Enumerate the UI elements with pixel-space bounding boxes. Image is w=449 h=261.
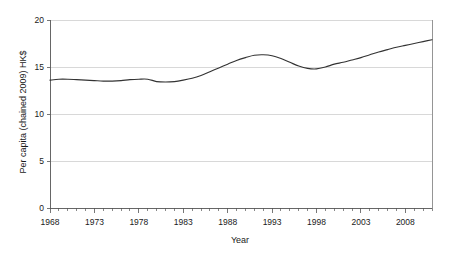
data-series-group (50, 40, 432, 82)
x-axis-tick-label: 1983 (174, 217, 193, 227)
x-axis-tick-labels-group: 196819731978198319881993199820032008 (41, 217, 416, 227)
y-axis-tick-label: 5 (39, 156, 44, 166)
y-axis-tick-label: 0 (39, 203, 44, 213)
x-axis-ticks-group (50, 208, 432, 213)
y-axis-tick-labels-group: 05101520 (35, 15, 45, 213)
y-axis-title: Per capita (chained 2009) HK$ (18, 50, 28, 173)
x-axis-title: Year (231, 235, 249, 245)
x-axis-tick-label: 2003 (351, 217, 370, 227)
x-axis-tick-label: 2008 (396, 217, 415, 227)
x-axis-tick-label: 1993 (263, 217, 282, 227)
x-axis-tick-label: 1998 (307, 217, 326, 227)
y-axis-tick-label: 10 (35, 109, 45, 119)
x-axis-tick-label: 1968 (41, 217, 60, 227)
gridlines-group (50, 20, 432, 161)
y-axis-tick-label: 15 (35, 62, 45, 72)
data-line-series-0 (50, 40, 432, 82)
line-chart: 05101520 1968197319781983198819931998200… (0, 0, 449, 261)
chart-container: 05101520 1968197319781983198819931998200… (0, 0, 449, 261)
y-axis-tick-label: 20 (35, 15, 45, 25)
x-axis-tick-label: 1978 (129, 217, 148, 227)
x-axis-tick-label: 1973 (85, 217, 104, 227)
x-axis-tick-label: 1988 (218, 217, 237, 227)
